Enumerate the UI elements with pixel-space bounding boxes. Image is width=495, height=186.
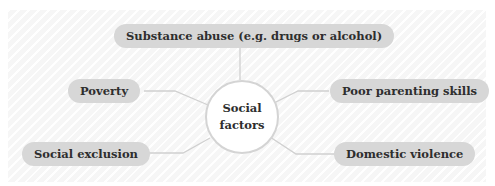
center-label-line2: factors bbox=[220, 117, 265, 134]
node-poor-parenting-skills: Poor parenting skills bbox=[330, 79, 489, 103]
center-node-social-factors: Social factors bbox=[205, 80, 279, 154]
node-substance-abuse: Substance abuse (e.g. drugs or alcohol) bbox=[114, 24, 394, 48]
node-domestic-violence: Domestic violence bbox=[334, 142, 475, 166]
node-poverty: Poverty bbox=[68, 79, 140, 103]
node-social-exclusion: Social exclusion bbox=[22, 142, 150, 166]
center-label-line1: Social bbox=[220, 100, 265, 117]
